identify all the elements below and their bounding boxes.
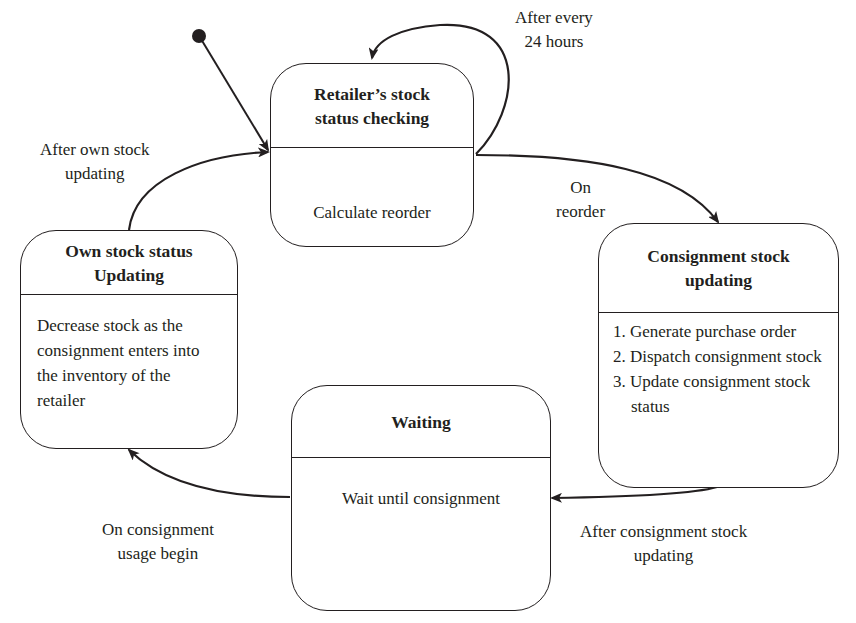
state-own-stock-updating: Own stock status Updating Decrease stock… [20, 230, 238, 449]
label-on-reorder: On reorder [556, 176, 605, 224]
state-title: Retailer’s stock status checking [271, 64, 473, 148]
state-title: Own stock status Updating [21, 231, 237, 295]
activity-item: 3. Update consignment stock status [613, 369, 830, 419]
state-title: Waiting [292, 386, 550, 458]
after-consignment-arrow [552, 487, 717, 498]
state-activity: Decrease stock as the consignment enters… [21, 295, 237, 448]
state-retailer-stock-checking: Retailer’s stock status checking Calcula… [270, 63, 474, 247]
state-consignment-stock-updating: Consignment stock updating 1. Generate p… [598, 223, 839, 488]
usage-begin-arrow [129, 450, 290, 497]
state-activity: Wait until consignment [292, 458, 550, 610]
activity-item: 1. Generate purchase order [613, 319, 830, 344]
initial-transition-arrow [201, 39, 268, 150]
state-activity: Calculate reorder [271, 148, 473, 246]
state-activities: 1. Generate purchase order 2. Dispatch c… [599, 313, 838, 487]
label-after-own-stock-updating: After own stock updating [40, 138, 150, 186]
label-after-consignment-stock-updating: After consignment stock updating [580, 520, 747, 568]
label-after-every-24-hours: After every 24 hours [515, 6, 593, 54]
state-title: Consignment stock updating [599, 224, 838, 313]
after-own-arrow [129, 152, 268, 230]
activity-item: 2. Dispatch consignment stock [613, 344, 830, 369]
initial-state-dot [192, 29, 206, 43]
label-on-consignment-usage-begin: On consignment usage begin [102, 518, 214, 566]
state-waiting: Waiting Wait until consignment [291, 385, 551, 611]
